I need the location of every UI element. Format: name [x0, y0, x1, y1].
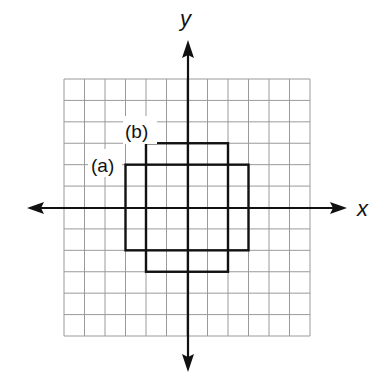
y-axis	[182, 40, 194, 372]
rect-b-label: (b)	[125, 121, 148, 142]
rect-a-label: (a)	[91, 155, 114, 176]
y-axis-label: y	[178, 6, 193, 31]
coordinate-plane-figure: x y (a) (b)	[0, 0, 380, 386]
x-axis-label: x	[356, 196, 369, 221]
